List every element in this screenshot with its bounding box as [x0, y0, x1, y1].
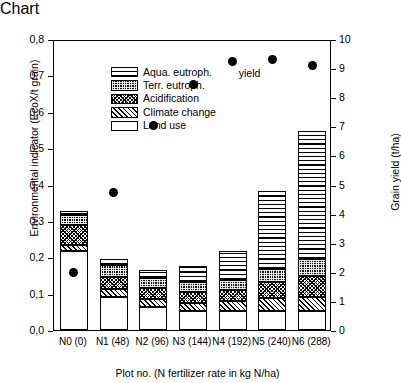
y-axis-right-tick: [331, 331, 336, 332]
legend-item: Climate change: [111, 106, 257, 118]
y-axis-left-tick-label: 0,6: [0, 106, 44, 118]
bar-segment: [60, 211, 88, 215]
x-axis-category-label: N6 (288): [285, 336, 337, 347]
y-axis-left-tick-label: 0,3: [0, 215, 44, 227]
y-axis-left-tick-label: 0,8: [0, 33, 44, 45]
y-axis-right-tick-label: 2: [339, 266, 369, 278]
bar-segment: [298, 276, 326, 297]
bar-segment: [258, 298, 286, 311]
bar-segment: [179, 311, 207, 330]
bar-segment: [298, 297, 326, 312]
y-axis-right-tick-label: 1: [339, 295, 369, 307]
bar-segment: [258, 269, 286, 282]
bar-segment: [179, 303, 207, 311]
bar-segment: [219, 290, 247, 302]
legend-item: Terr. eutroph.: [111, 79, 257, 91]
y-axis-right-tick-label: 8: [339, 91, 369, 103]
yield-data-point: [308, 61, 317, 70]
bar-segment: [60, 215, 88, 225]
bar-segment: [139, 270, 167, 278]
bar-segment: [258, 191, 286, 270]
legend-item-label: Climate change: [143, 107, 216, 118]
y-axis-right-tick: [331, 156, 336, 157]
plot-area: Aqua. eutroph.Terr. eutroph.Acidificatio…: [53, 40, 331, 331]
y-axis-right-tick: [331, 186, 336, 187]
bar-segment: [100, 277, 128, 288]
bar-segment: [60, 251, 88, 330]
legend-item-label: Terr. eutroph.: [143, 80, 205, 91]
y-axis-right-tick-label: 6: [339, 149, 369, 161]
y-axis-left-tick: [48, 331, 53, 332]
y-axis-right-tick-label: 7: [339, 120, 369, 132]
bar-segment: [139, 278, 167, 289]
legend-item: Land use: [111, 120, 257, 132]
open-white-swatch: [111, 121, 138, 132]
bar-segment: [219, 251, 247, 280]
yield-annotation: yield: [239, 67, 261, 79]
legend: Aqua. eutroph.Terr. eutroph.Acidificatio…: [111, 66, 257, 133]
y-axis-right-tick: [331, 127, 336, 128]
y-axis-right-tick-label: 9: [339, 62, 369, 74]
y-axis-left-tick-label: 0,4: [0, 179, 44, 191]
bar-segment: [60, 245, 88, 250]
legend-item: Aqua. eutroph.: [111, 66, 257, 78]
y-axis-right-tick: [331, 98, 336, 99]
bar-segment: [139, 288, 167, 299]
bar-segment: [258, 282, 286, 297]
y-axis-right-tick: [331, 244, 336, 245]
legend-item-label: Aqua. eutroph.: [143, 67, 212, 78]
y-axis-right-tick-label: 4: [339, 208, 369, 220]
y-axis-right-title: Grain yield (t/ha): [389, 82, 401, 262]
y-axis-right-tick: [331, 69, 336, 70]
bar-segment: [139, 307, 167, 330]
horizontal-lines-swatch: [111, 67, 138, 78]
y-axis-right-tick: [331, 302, 336, 303]
bar-segment: [298, 131, 326, 259]
bar-segment: [219, 301, 247, 310]
dark-checker-swatch: [111, 80, 138, 91]
bar-segment: [219, 280, 247, 290]
bar-segment: [179, 282, 207, 292]
y-axis-left-tick-label: 0,2: [0, 251, 44, 263]
bar-segment: [60, 225, 88, 245]
bar-segment: [258, 311, 286, 330]
bar-stack: [298, 39, 326, 330]
bar-segment: [219, 311, 247, 330]
bar-segment: [298, 259, 326, 276]
y-axis-right-tick: [331, 273, 336, 274]
bar-segment: [179, 292, 207, 303]
bar-segment: [298, 311, 326, 330]
bar-stack: [60, 39, 88, 330]
bar-segment: [179, 266, 207, 282]
diagonal-hatch-swatch: [111, 107, 138, 118]
y-axis-left-tick-label: 0,0: [0, 324, 44, 336]
bar-segment: [100, 265, 128, 277]
yield-data-point: [228, 57, 237, 66]
y-axis-right-tick: [331, 215, 336, 216]
legend-item-label: Land use: [143, 120, 186, 131]
y-axis-right-tick-label: 3: [339, 237, 369, 249]
chart-figure: Environmental indicator (EcoX/t grain) G…: [0, 18, 395, 383]
y-axis-right-tick: [331, 40, 336, 41]
bar-segment: [100, 259, 128, 264]
legend-item: Acidification: [111, 93, 257, 105]
y-axis-left-tick-label: 0,5: [0, 142, 44, 154]
y-axis-right-tick-label: 5: [339, 179, 369, 191]
legend-item-label: Acidification: [143, 93, 199, 104]
y-axis-right-tick-label: 10: [339, 33, 369, 45]
bar-stack: [258, 39, 286, 330]
x-axis-title: Plot no. (N fertilizer rate in kg N/ha): [0, 367, 395, 379]
y-axis-left-tick-label: 0,7: [0, 69, 44, 81]
yield-data-point: [109, 188, 118, 197]
cross-hatch-swatch: [111, 94, 138, 105]
y-axis-left-tick-label: 0,1: [0, 288, 44, 300]
y-axis-right-tick-label: 0: [339, 324, 369, 336]
bar-segment: [139, 299, 167, 307]
bar-segment: [100, 297, 128, 330]
bar-segment: [100, 289, 128, 297]
